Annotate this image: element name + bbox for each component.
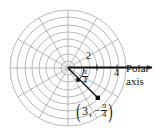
coord-open-paren: ( (76, 104, 80, 118)
polar-axis-label: Polar axis (126, 62, 149, 88)
point-marker-outer (96, 96, 100, 100)
polar-axis-label-line2: axis (126, 75, 149, 88)
radius-tick-label-4: 4 (114, 68, 119, 78)
angle-label-pi-over-4: π 4 (82, 68, 88, 85)
coord-angle-denominator: 4 (101, 111, 107, 119)
coord-close-paren: ) (109, 104, 113, 118)
point-coordinate-label: ( 3 , − π 4 ) (75, 102, 114, 119)
coord-radius-value: 3 (82, 105, 89, 117)
coord-minus-sign: − (93, 105, 101, 116)
angle-fraction: π 4 (82, 68, 88, 85)
polar-coordinate-figure: 2 4 π 4 Polar axis ( 3 , − π 4 ) (0, 0, 163, 133)
angle-fraction-denominator: 4 (82, 77, 88, 85)
point-marker-inner (76, 78, 80, 82)
polar-axis-label-line1: Polar (126, 62, 149, 75)
coord-angle-fraction: π 4 (101, 102, 107, 119)
radius-tick-label-2: 2 (86, 51, 91, 61)
